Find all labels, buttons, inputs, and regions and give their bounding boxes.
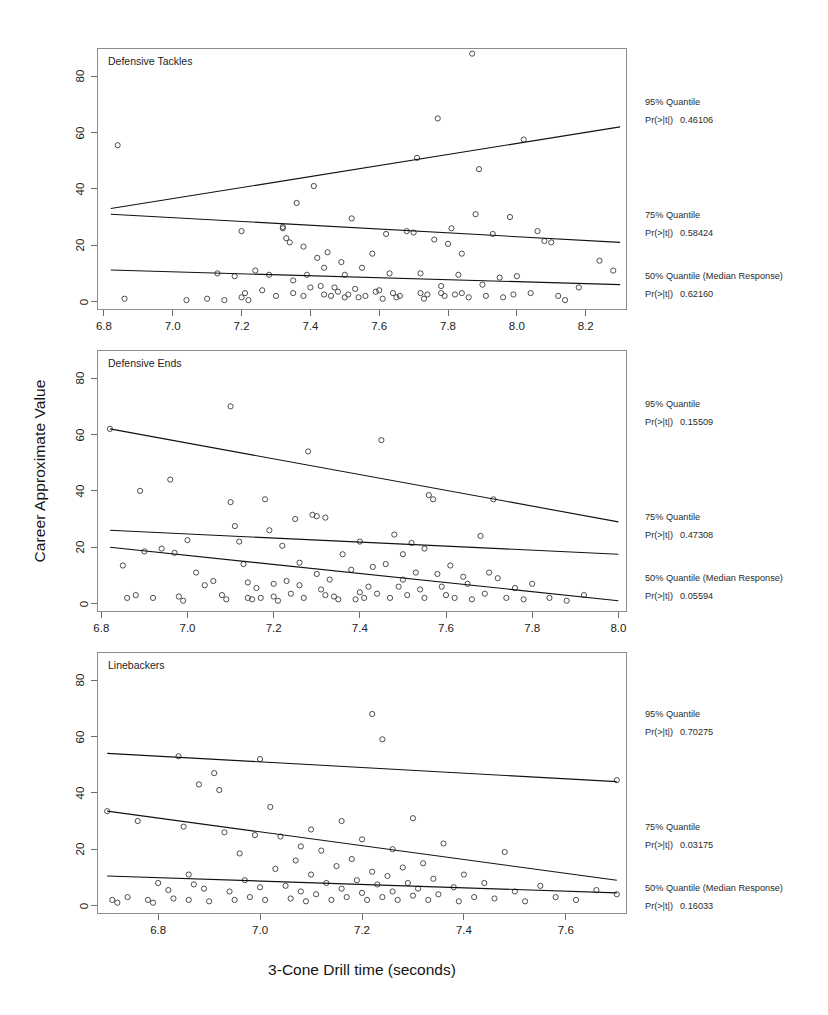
quantile-pvalue: Pr(>|t|)0.47308: [645, 531, 820, 540]
annotation-p2-q95: 95% Quantile Pr(>|t|)0.70275: [645, 710, 820, 737]
data-point: [297, 560, 302, 565]
data-point: [549, 240, 554, 245]
data-point: [377, 288, 382, 293]
x-tick-mark: [516, 310, 517, 316]
x-tick-label: 7.2: [266, 622, 282, 634]
y-tick: 60: [74, 127, 97, 139]
x-tick-label: 7.8: [524, 622, 540, 634]
data-point: [441, 841, 446, 846]
data-point: [359, 890, 364, 895]
x-tick-label: 8.0: [509, 320, 525, 332]
data-point: [418, 587, 423, 592]
x-tick-mark: [158, 914, 159, 920]
data-point: [553, 895, 558, 900]
data-point: [271, 581, 276, 586]
data-point: [227, 889, 232, 894]
data-point: [495, 576, 500, 581]
data-point: [422, 595, 427, 600]
y-tick-label: 60: [75, 730, 87, 743]
quantile-label: 75% Quantile: [645, 211, 820, 220]
data-point: [120, 563, 125, 568]
data-point: [267, 528, 272, 533]
data-point: [528, 291, 533, 296]
quantile-label: 95% Quantile: [645, 400, 820, 409]
data-point: [318, 587, 323, 592]
x-tick-label: 7.2: [234, 320, 250, 332]
data-point: [573, 897, 578, 902]
data-point: [436, 892, 441, 897]
data-point: [370, 251, 375, 256]
x-tick-label: 8.0: [610, 622, 626, 634]
quantile-pvalue: Pr(>|t|)0.58424: [645, 229, 820, 238]
x-tick: 7.0: [165, 310, 181, 332]
data-point: [186, 872, 191, 877]
data-point: [334, 864, 339, 869]
quantile-regression-figure: Career Approximate Value 3-Cone Drill ti…: [0, 0, 828, 1015]
data-point: [181, 598, 186, 603]
data-point: [426, 492, 431, 497]
data-point: [366, 584, 371, 589]
data-point: [293, 516, 298, 521]
data-point: [413, 570, 418, 575]
pvalue-label: Pr(>|t|): [645, 417, 673, 427]
y-tick: 60: [74, 731, 97, 743]
y-tick: 80: [74, 674, 97, 686]
data-point: [232, 523, 237, 528]
data-point: [346, 292, 351, 297]
data-point: [339, 818, 344, 823]
data-point: [211, 578, 216, 583]
data-point: [466, 295, 471, 300]
data-point: [397, 293, 402, 298]
quantile-pvalue: Pr(>|t|)0.70275: [645, 728, 820, 737]
data-point: [241, 562, 246, 567]
quantile-regression-line-1: [107, 811, 617, 880]
data-point: [448, 563, 453, 568]
y-tick-mark: [91, 490, 97, 491]
data-point: [156, 880, 161, 885]
y-tick-label: 0: [78, 600, 90, 606]
panel-linebackers: Linebackers: [97, 652, 627, 914]
data-point: [217, 787, 222, 792]
data-point: [239, 229, 244, 234]
data-point: [166, 887, 171, 892]
data-point: [511, 292, 516, 297]
data-point: [383, 231, 388, 236]
data-point: [339, 886, 344, 891]
x-axis-title: 3-Cone Drill time (seconds): [97, 961, 627, 979]
data-point: [379, 438, 384, 443]
panel-title: Defensive Ends: [108, 357, 182, 369]
pvalue-value: 0.70275: [680, 727, 713, 737]
pvalue-label: Pr(>|t|): [645, 901, 673, 911]
data-point: [522, 899, 527, 904]
quantile-pvalue: Pr(>|t|)0.46106: [645, 116, 820, 125]
data-point: [115, 143, 120, 148]
y-tick: 20: [74, 843, 97, 855]
data-point: [181, 824, 186, 829]
annotation-p1-q75: 75% Quantile Pr(>|t|)0.47308: [645, 513, 820, 540]
data-point: [507, 214, 512, 219]
data-point: [194, 570, 199, 575]
quantile-label: 75% Quantile: [645, 513, 820, 522]
data-point: [137, 488, 142, 493]
y-tick: 40: [74, 183, 97, 195]
x-tick-label: 8.2: [578, 320, 594, 332]
data-point: [273, 293, 278, 298]
y-tick-label: 40: [75, 484, 87, 497]
data-point: [482, 591, 487, 596]
data-point: [452, 595, 457, 600]
y-tick-label: 20: [75, 843, 87, 856]
quantile-label: 95% Quantile: [645, 710, 820, 719]
data-point: [470, 51, 475, 56]
data-point: [432, 237, 437, 242]
data-point: [359, 837, 364, 842]
x-tick-label: 7.8: [440, 320, 456, 332]
data-point: [228, 404, 233, 409]
quantile-regression-line-0: [111, 127, 620, 209]
pvalue-value: 0.58424: [680, 228, 713, 238]
data-point: [232, 274, 237, 279]
data-point: [135, 818, 140, 823]
data-point: [449, 226, 454, 231]
x-tick: 7.8: [524, 612, 540, 634]
annotation-p0-q95: 95% Quantile Pr(>|t|)0.46106: [645, 98, 820, 125]
data-point: [564, 598, 569, 603]
